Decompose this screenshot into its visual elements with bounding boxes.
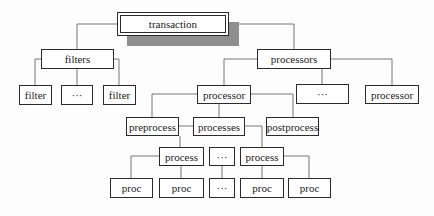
node-transaction: transaction bbox=[117, 12, 229, 36]
node-process1: process bbox=[159, 147, 204, 166]
node-proc-ellipsis: ··· bbox=[209, 178, 235, 198]
node-processor-ellipsis: ··· bbox=[296, 84, 349, 104]
node-proc4: proc bbox=[288, 178, 331, 198]
node-process-ellipsis: ··· bbox=[209, 147, 235, 166]
node-filter2: filter bbox=[103, 85, 136, 105]
node-proc2: proc bbox=[159, 178, 204, 198]
tree-diagram: transaction filtersfilter···filterproces… bbox=[0, 0, 434, 216]
node-proc3: proc bbox=[240, 178, 284, 198]
node-filter1: filter bbox=[19, 85, 52, 105]
node-process2: process bbox=[240, 147, 284, 166]
node-processors: processors bbox=[257, 49, 331, 69]
node-postprocess: postprocess bbox=[266, 117, 319, 136]
node-filters: filters bbox=[41, 49, 114, 69]
node-filter-ellipsis: ··· bbox=[61, 85, 93, 105]
node-processor2: processor bbox=[365, 85, 419, 104]
node-processes: processes bbox=[193, 117, 245, 136]
node-proc1: proc bbox=[110, 178, 153, 198]
node-preprocess: preprocess bbox=[126, 117, 179, 136]
node-label: transaction bbox=[120, 15, 226, 33]
node-processor1: processor bbox=[197, 85, 251, 104]
